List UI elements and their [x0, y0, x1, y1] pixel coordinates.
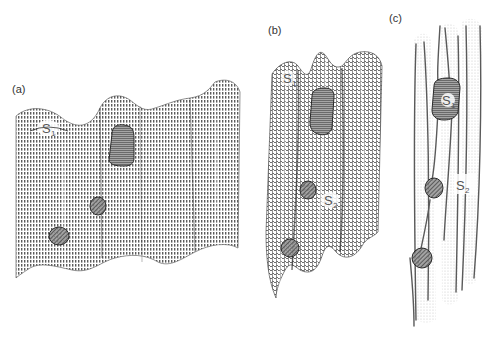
svg-text:2: 2 — [465, 186, 470, 195]
panel-a-blob-medium — [90, 197, 106, 215]
panel-c-surface — [410, 19, 482, 326]
panel-b-s2-label: S — [324, 193, 333, 208]
svg-text:2: 2 — [333, 201, 338, 210]
panel-c-s1-label: S — [442, 93, 451, 108]
svg-text:1: 1 — [51, 129, 56, 138]
panel-a-surface — [16, 80, 240, 278]
figure: (a) (b) (c) — [0, 0, 496, 340]
panel-c-s2-label: S — [456, 178, 465, 193]
panel-b-blob-small — [281, 239, 299, 257]
panel-b-blob-medium — [300, 181, 316, 199]
panel-a-blob-small — [49, 227, 69, 245]
panel-c-blob-small — [412, 248, 432, 268]
panel-c-s2-marker: S 2 — [454, 174, 476, 195]
svg-text:1: 1 — [451, 101, 456, 110]
panel-c-blob-medium — [425, 178, 443, 198]
svg-text:1: 1 — [292, 79, 297, 88]
panel-b-s1-label: S — [283, 71, 292, 86]
panel-a-blob-large — [109, 125, 134, 166]
panel-b-s2-marker: S 2 — [321, 192, 339, 210]
panel-a-s1-label: S — [42, 121, 51, 136]
figure-graphics: S 1 S 1 S 2 — [0, 0, 496, 340]
panel-b-blob-large — [310, 88, 334, 135]
